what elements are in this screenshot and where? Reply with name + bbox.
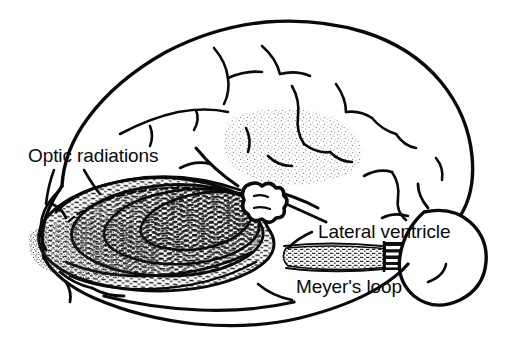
label-optic-radiations: Optic radiations xyxy=(28,146,158,165)
label-meyers-loop: Meyer's loop xyxy=(296,277,402,296)
brain-illustration xyxy=(0,0,515,348)
label-lateral-ventricle: Lateral ventricle xyxy=(318,222,450,241)
lateral-geniculate-nucleus xyxy=(242,183,287,222)
brain-anatomy-figure: Optic radiations Lateral ventricle Meyer… xyxy=(0,0,515,348)
